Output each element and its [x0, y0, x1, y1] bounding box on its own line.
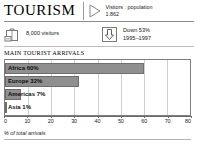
x-axis-tick-label: 20 [48, 118, 54, 125]
x-axis-tick-label: 10 [24, 118, 30, 125]
stat-decline-line2: 1995–1997 [123, 35, 151, 43]
chart-x-axis: 01020304050607080 [4, 116, 191, 128]
stat-visitors: 8,000 visitors [4, 26, 101, 43]
stat-visitors-line1: 8,000 visitors [26, 30, 59, 36]
stat-visitors-text: 8,000 visitors [26, 26, 59, 38]
tourism-infographic-panel: TOURISM Visitors : population 1:862 [0, 0, 197, 168]
bottom-rule [4, 139, 191, 140]
x-axis-tick-label: 50 [118, 118, 124, 125]
chart-bar-label-asia: Asia 1% [8, 103, 31, 112]
chart-bar-label-europe: Europe 32% [8, 77, 42, 86]
x-axis-caption: % of total arrivals [0, 128, 197, 137]
stat-decline-line1: Down 53% [123, 27, 150, 33]
x-axis-tick-label: 0 [4, 118, 7, 125]
stat-decline: Down 53% 1995–1997 [101, 26, 194, 43]
chart-bar-row: Americas 7% [5, 89, 190, 100]
header: TOURISM Visitors : population 1:862 [0, 0, 197, 20]
ratio-label: Visitors : population [105, 4, 152, 10]
chart-bar-row: Asia 1% [5, 102, 190, 113]
stat-decline-text: Down 53% 1995–1997 [123, 26, 151, 42]
suitcase-icon [4, 26, 21, 43]
x-axis-tick-label: 80 [185, 118, 191, 125]
page-title: TOURISM [4, 2, 75, 19]
ratio-value: 1:862 [105, 11, 119, 17]
visitors-population-ratio: Visitors : population 1:862 [105, 2, 152, 18]
stats-row: 8,000 visitors Down 53% 1995–1997 [0, 22, 197, 46]
chart-bar-label-africa: Africa 60% [8, 64, 39, 73]
chart-plot-area: Africa 60%Europe 32%Americas 7%Asia 1% [5, 60, 190, 115]
x-axis-tick-label: 70 [165, 118, 171, 125]
bar-chart: Africa 60%Europe 32%Americas 7%Asia 1% [4, 59, 191, 116]
x-axis-tick-label: 60 [141, 118, 147, 125]
x-axis-tick [191, 116, 192, 118]
x-axis-tick-label: 40 [95, 118, 101, 125]
chart-bar-row: Africa 60% [5, 63, 190, 74]
chart-bar-asia [5, 102, 7, 113]
chart-bar-row: Europe 32% [5, 76, 190, 87]
chart-title: MAIN TOURIST ARRIVALS [0, 47, 197, 58]
triangle-right-icon [89, 4, 101, 18]
header-divider [83, 2, 84, 20]
x-axis-tick-label: 30 [71, 118, 77, 125]
chart-bar-label-americas: Americas 7% [8, 90, 45, 99]
chart-bars: Africa 60%Europe 32%Americas 7%Asia 1% [5, 63, 190, 113]
down-arrow-icon [101, 26, 118, 43]
